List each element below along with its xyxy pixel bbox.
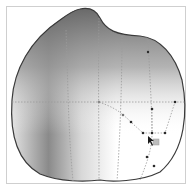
selected-node-marker[interactable]	[153, 139, 159, 145]
mesh-canvas[interactable]	[0, 0, 194, 192]
peach-fill	[0, 0, 194, 192]
